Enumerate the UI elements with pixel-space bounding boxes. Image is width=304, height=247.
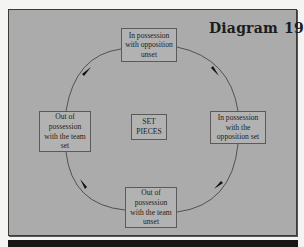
arrow-up-left-icon bbox=[80, 179, 87, 189]
diagram-title: Diagram19 bbox=[209, 20, 295, 36]
arc-right-to-bottom bbox=[177, 144, 238, 212]
node-out-of-possession-team-set: Out of possession with the team set bbox=[39, 111, 91, 152]
arrow-down-left-icon bbox=[214, 181, 223, 189]
diagram-title-label: Diagram bbox=[209, 20, 278, 36]
node-label: Out of possession with the team set bbox=[42, 112, 88, 150]
node-set-pieces: SET PIECES bbox=[131, 114, 167, 140]
diagram-number: 19 bbox=[284, 20, 304, 36]
node-label: In possession with opposition unset bbox=[124, 31, 174, 60]
node-label: In possession with the opposition set bbox=[213, 113, 263, 142]
arc-bottom-to-left bbox=[66, 152, 125, 210]
center-label: SET PIECES bbox=[134, 117, 164, 136]
node-label: Out of possession with the team unset bbox=[128, 188, 174, 226]
arc-left-to-top bbox=[66, 49, 121, 111]
node-in-possession-opposition-unset: In possession with opposition unset bbox=[121, 28, 177, 62]
node-out-of-possession-team-unset: Out of possession with the team unset bbox=[125, 187, 177, 228]
page-bottom-rule bbox=[8, 240, 298, 247]
arc-top-to-right bbox=[177, 47, 238, 111]
node-in-possession-opposition-set: In possession with the opposition set bbox=[210, 111, 266, 144]
diagram-page: Diagram19 In possession with opposition … bbox=[0, 0, 304, 247]
